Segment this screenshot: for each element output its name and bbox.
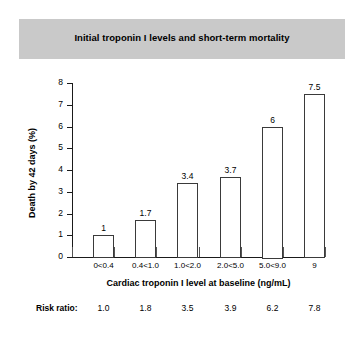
y-axis-line (72, 83, 73, 258)
x-axis-tick (72, 247, 73, 257)
x-axis-tick (283, 247, 284, 257)
y-axis-tick (67, 235, 72, 236)
y-axis-tick (67, 83, 72, 84)
y-axis-tick-label: 8 (41, 77, 63, 87)
bar-value-label: 3.7 (206, 165, 255, 175)
risk-ratio-value: 7.8 (290, 303, 339, 313)
bar (135, 220, 156, 258)
bar-value-label: 1.7 (121, 208, 170, 218)
y-axis-tick (67, 148, 72, 149)
bar-value-label: 3.4 (163, 171, 212, 181)
y-axis-title: Death by 42 days (%) (27, 113, 37, 233)
bar (220, 177, 241, 258)
y-axis-tick-label: 4 (41, 164, 63, 174)
x-axis-tick (325, 247, 326, 257)
y-axis-tick (67, 192, 72, 193)
bar (304, 94, 325, 258)
risk-ratio-value: 3.5 (163, 303, 212, 313)
x-axis-tick (199, 247, 200, 257)
plot-area: Death by 42 days (%) Cardiac troponin I … (0, 0, 363, 345)
x-axis-tick (156, 247, 157, 257)
x-axis-category-label: 9 (290, 261, 339, 270)
y-axis-tick-label: 6 (41, 121, 63, 131)
bar (262, 127, 283, 259)
y-axis-tick-label: 3 (41, 186, 63, 196)
bar-value-label: 1 (79, 223, 128, 233)
y-axis-tick-label: 2 (41, 208, 63, 218)
y-axis-tick (67, 105, 72, 106)
bar (177, 183, 198, 258)
x-axis-title: Cardiac troponin I level at baseline (ng… (72, 278, 325, 288)
y-axis-tick-label: 7 (41, 99, 63, 109)
y-axis-tick (67, 257, 72, 258)
y-axis-tick (67, 127, 72, 128)
figure-container: Initial troponin I levels and short-term… (0, 0, 363, 345)
y-axis-tick (67, 214, 72, 215)
bar-value-label: 6 (248, 115, 297, 125)
risk-ratio-label: Risk ratio: (36, 303, 78, 313)
y-axis-tick-label: 5 (41, 142, 63, 152)
bar (93, 235, 114, 258)
x-axis-category-label: 1.0<2.0 (163, 261, 212, 270)
y-axis-tick-label: 0 (41, 251, 63, 261)
y-axis-tick-label: 1 (41, 229, 63, 239)
bar-value-label: 7.5 (290, 82, 339, 92)
x-axis-tick (114, 247, 115, 257)
risk-ratio-row: Risk ratio: 1.01.83.53.96.27.8 (0, 303, 363, 317)
x-axis-tick (241, 247, 242, 257)
y-axis-tick (67, 170, 72, 171)
